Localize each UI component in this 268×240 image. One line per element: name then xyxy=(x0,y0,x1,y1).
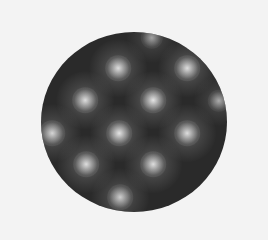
circular-aperture-image xyxy=(41,32,227,212)
edge-vignette xyxy=(41,32,227,212)
